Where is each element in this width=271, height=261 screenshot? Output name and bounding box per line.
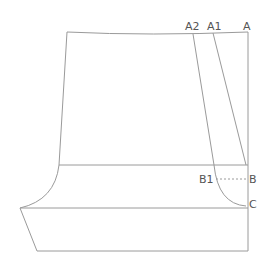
label-a1: A1 bbox=[207, 21, 222, 32]
label-b1: B1 bbox=[199, 174, 214, 185]
label-a2: A2 bbox=[185, 21, 200, 32]
label-b: B bbox=[249, 174, 257, 185]
left-hem-line bbox=[20, 208, 37, 251]
pattern-diagram bbox=[0, 0, 271, 261]
label-c: C bbox=[249, 199, 257, 210]
a1-b-line bbox=[213, 33, 246, 165]
left-edge-curve bbox=[20, 32, 67, 208]
label-a: A bbox=[243, 21, 251, 32]
